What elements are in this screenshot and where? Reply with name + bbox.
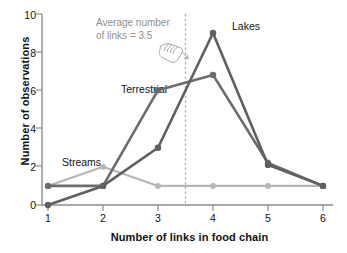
pointing-hand-icon xyxy=(159,44,188,63)
y-tick-marks xyxy=(36,14,42,205)
x-tick-marks xyxy=(48,205,323,211)
plot-area xyxy=(0,0,347,253)
food-chain-links-chart: Number of observations 10 8 6 4 2 0 1 2 … xyxy=(0,0,347,253)
